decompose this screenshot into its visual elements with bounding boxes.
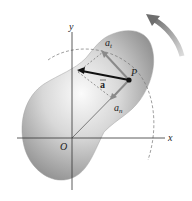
point-p [126, 77, 131, 82]
rigid-body [22, 31, 154, 180]
point-p-label: P [130, 67, 137, 78]
rigid-body-diagram: x y O at an a P [0, 0, 192, 201]
origin-label: O [60, 141, 67, 152]
x-axis-label: x [167, 132, 173, 143]
rotation-arrow [153, 19, 182, 56]
y-axis-label: y [68, 21, 74, 32]
accel-label: a [100, 79, 105, 90]
